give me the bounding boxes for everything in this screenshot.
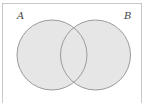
set-a-label: A: [17, 11, 24, 21]
set-b-label: B: [124, 11, 131, 21]
